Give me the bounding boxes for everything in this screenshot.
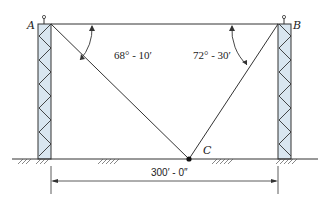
tower-b (278, 15, 291, 159)
angle-label-b: 72° - 30′ (193, 49, 231, 61)
line-bc (189, 24, 278, 159)
dimension-label: 300′ - 0″ (151, 167, 188, 178)
suspension-diagram: A B C 68° - 10′ 72° - 30′ 300′ - 0″ (0, 0, 330, 200)
angle-arc-b (232, 26, 247, 65)
tower-a (38, 15, 51, 159)
ground-hatching (18, 159, 297, 164)
label-point-a: A (26, 19, 35, 32)
label-point-b: B (292, 19, 301, 32)
angle-label-a: 68° - 10′ (114, 49, 152, 61)
line-ac (51, 24, 189, 159)
label-point-c: C (203, 144, 212, 157)
point-c-marker (186, 156, 191, 161)
angle-arc-a (80, 26, 92, 60)
